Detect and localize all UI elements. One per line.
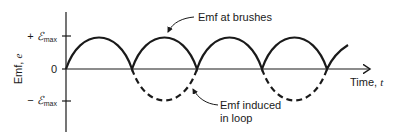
tick-label-plus-max: + ℰmax [27, 30, 57, 43]
annotation-emf-induced-line2: in loop [220, 112, 252, 124]
brushes-leader-line [168, 17, 194, 32]
annotation-emf-induced-line1: Emf induced [220, 99, 281, 111]
emf-induced-in-loop-curve [132, 69, 327, 101]
y-axis-label: Emf, e [12, 54, 24, 85]
tick-label-zero: 0 [51, 63, 57, 75]
x-axis-label: Time, t [350, 76, 384, 88]
tick-label-minus-max: − ℰmax [27, 94, 57, 107]
emf-at-brushes-curve [66, 38, 348, 70]
emf-diagram: + ℰmax 0 − ℰmax Emf, e Time, t Emf at br… [0, 0, 395, 138]
annotation-emf-at-brushes: Emf at brushes [198, 11, 272, 23]
loop-leader-line [193, 89, 218, 105]
